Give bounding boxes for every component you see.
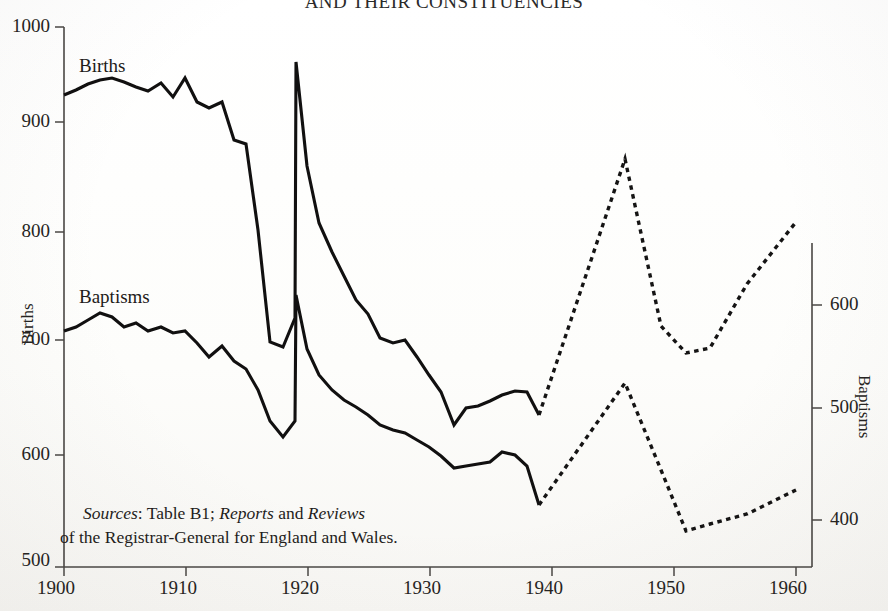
right-tick-400: 400 bbox=[830, 508, 859, 530]
bottom-tick-1960: 1960 bbox=[769, 577, 807, 599]
source-note-line2: of the Registrar-General for England and… bbox=[60, 526, 398, 548]
left-axis-title: Births bbox=[18, 303, 38, 345]
right-tick-600: 600 bbox=[830, 293, 859, 315]
bottom-tick-1930: 1930 bbox=[403, 577, 441, 599]
series-baptisms-solid bbox=[64, 295, 539, 505]
source-note-and: and bbox=[274, 503, 308, 523]
right-axis-ticks bbox=[812, 305, 822, 520]
left-tick-500: 500 bbox=[0, 549, 50, 571]
source-note-reviews: Reviews bbox=[308, 503, 365, 523]
source-note-mid: : Table B1; bbox=[138, 503, 220, 523]
source-note-sources-word: Sources bbox=[83, 503, 138, 523]
bottom-tick-1900: 1900 bbox=[37, 577, 75, 599]
bottom-tick-1950: 1950 bbox=[647, 577, 685, 599]
left-tick-1000: 1000 bbox=[0, 15, 50, 37]
left-tick-900: 900 bbox=[0, 110, 50, 132]
series-births-solid bbox=[64, 62, 539, 425]
right-axis-title: Baptisms bbox=[854, 375, 874, 438]
source-note-reports: Reports bbox=[219, 503, 273, 523]
left-tick-600: 600 bbox=[0, 443, 50, 465]
left-tick-800: 800 bbox=[0, 220, 50, 242]
series-label-baptisms: Baptisms bbox=[79, 286, 150, 308]
source-note-line1: Sources: Table B1; Reports and Reviews bbox=[83, 502, 365, 524]
series-baptisms-dotted bbox=[539, 383, 796, 531]
bottom-tick-1940: 1940 bbox=[525, 577, 563, 599]
bottom-tick-1920: 1920 bbox=[281, 577, 319, 599]
bottom-axis-ticks bbox=[64, 567, 796, 576]
series-label-births: Births bbox=[79, 55, 125, 77]
series-births-dotted bbox=[539, 159, 796, 415]
bottom-tick-1910: 1910 bbox=[159, 577, 197, 599]
left-axis-ticks bbox=[55, 27, 64, 567]
